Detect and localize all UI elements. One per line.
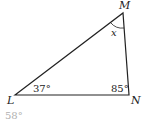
angle-label-n: 85° (111, 83, 129, 94)
angle-label-m: x (111, 27, 117, 38)
angle-label-l: 37° (33, 83, 51, 94)
answer-text: 58° (5, 110, 23, 121)
vertex-label-l: L (6, 94, 14, 107)
triangle-diagram: M L N x 37° 85° (0, 0, 145, 128)
vertex-label-m: M (118, 0, 131, 12)
vertex-label-n: N (130, 94, 141, 107)
